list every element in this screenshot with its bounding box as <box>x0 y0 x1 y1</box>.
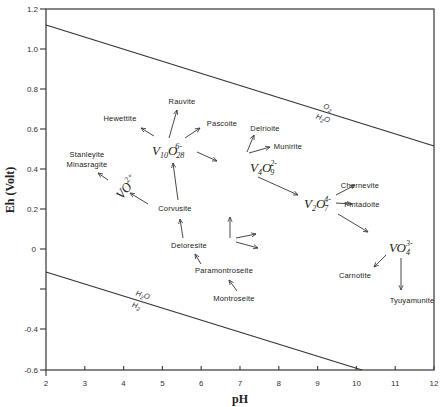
x-tick-7: 7 <box>238 379 243 388</box>
mineral-deloresite: Deloresite <box>171 241 207 250</box>
x-tick-5: 5 <box>160 379 165 388</box>
x-tick-9: 9 <box>315 379 320 388</box>
o2-h2o-boundary <box>46 25 434 146</box>
arrow-corvusite-to-v10 <box>173 163 178 200</box>
mineral-carnotite: Carnotite <box>339 271 371 280</box>
mineral-paramontroseite: Paramontroseite <box>195 266 253 275</box>
arrow-deloresite-to-corvusite <box>180 219 183 238</box>
mineral-rauvite: Rauvite <box>169 97 196 106</box>
x-tick-8: 8 <box>277 379 282 388</box>
svg-text:H2O: H2O <box>315 112 332 126</box>
svg-text:H2: H2 <box>131 300 142 312</box>
arrow-to-munirite <box>249 147 270 153</box>
arrow-v4-to-v2 <box>258 177 298 195</box>
arrow-to-stanleyite <box>98 173 108 180</box>
arrow-center-right-1 <box>236 234 256 238</box>
species-v4o9: V4O92- <box>250 159 277 177</box>
h2o-h2-boundary <box>46 272 362 370</box>
arrow-to-rauvite <box>169 110 177 138</box>
species-v2o7: V2O74- <box>304 195 331 213</box>
y-axis: 1.2 1.0 0.8 0.6 0.4 0.2 0 -0.4 -0.6 <box>24 5 46 375</box>
arrow-v2-to-vo4 <box>338 214 368 232</box>
arrow-to-pascoite <box>185 128 200 138</box>
mineral-stanleyite: Stanleyite <box>70 150 105 159</box>
x-tick-12: 12 <box>430 379 439 388</box>
mineral-montroseite: Montroseite <box>213 294 254 303</box>
mineral-hewettite: Hewettite <box>103 114 136 123</box>
x-tick-6: 6 <box>199 379 204 388</box>
o2-h2o-label: O2 H2O <box>315 100 335 125</box>
arrow-v10-to-v4 <box>197 152 217 161</box>
mineral-minasragite: Minasragite <box>67 160 108 169</box>
y-tick-0.8: 0.8 <box>27 85 39 94</box>
y-tick-0: 0 <box>32 245 37 254</box>
mineral-munirite: Munirite <box>274 142 302 151</box>
arrow-center-right-2 <box>236 242 258 248</box>
y-tick-1.0: 1.0 <box>27 45 39 54</box>
arrow-corvusite-to-vo2 <box>130 193 148 204</box>
arrow-to-hewettite <box>141 128 154 136</box>
mineral-delrioite: Delrioite <box>250 124 279 133</box>
species-v10o28: V10O286- <box>152 142 184 160</box>
mineral-pascoite: Pascoite <box>207 119 237 128</box>
mineral-chernevite: Chernevite <box>341 181 379 190</box>
eh-ph-diagram: 1.2 1.0 0.8 0.6 0.4 0.2 0 -0.4 -0.6 2 3 … <box>0 0 446 407</box>
y-tick-0.4: 0.4 <box>27 165 39 174</box>
arrow-to-delrioite <box>247 135 254 152</box>
species-vo4: VO43- <box>389 239 413 257</box>
mineral-pintadoite: Pintadoite <box>344 200 379 209</box>
y-tick-minus-0.4: -0.4 <box>24 325 38 334</box>
x-axis: 2 3 4 5 6 7 8 9 10 11 12 <box>44 366 439 388</box>
x-tick-10: 10 <box>352 379 361 388</box>
y-tick-0.6: 0.6 <box>27 125 39 134</box>
x-axis-title: pH <box>232 392 249 406</box>
mineral-tyuyamunite: Tyuyamunite <box>390 296 435 305</box>
y-axis-title: Eh (Volt) <box>3 167 17 214</box>
y-tick-0.2: 0.2 <box>27 205 39 214</box>
y-tick-1.2: 1.2 <box>27 5 39 14</box>
mineral-corvusite: Corvusite <box>158 204 191 213</box>
y-tick-minus-0.6: -0.6 <box>24 366 38 375</box>
x-tick-4: 4 <box>121 379 126 388</box>
x-tick-11: 11 <box>391 379 400 388</box>
x-tick-3: 3 <box>83 379 88 388</box>
x-tick-2: 2 <box>44 379 49 388</box>
arrow-paramontroseite-to-deloresite <box>195 254 201 264</box>
arrow-montroseite-to-paramontroseite <box>229 280 237 291</box>
diagram-canvas: 1.2 1.0 0.8 0.6 0.4 0.2 0 -0.4 -0.6 2 3 … <box>0 0 446 407</box>
arrow-to-carnotite <box>374 255 386 267</box>
